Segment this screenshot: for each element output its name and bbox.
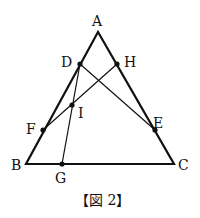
figure-caption: 【図 2】 <box>75 192 130 208</box>
label-d: D <box>61 54 72 70</box>
point-g <box>59 161 64 166</box>
segment-de <box>80 64 155 130</box>
point-f <box>40 127 45 132</box>
label-f: F <box>26 121 36 137</box>
triangle-abc <box>26 32 174 164</box>
point-i <box>69 102 74 107</box>
point-d <box>77 61 82 66</box>
label-i: I <box>78 105 84 121</box>
label-b: B <box>11 157 21 173</box>
label-h: H <box>124 54 136 70</box>
label-g: G <box>55 170 66 186</box>
label-e: E <box>153 115 163 131</box>
label-a: A <box>91 13 103 29</box>
triangle-diagram: A D H I F E B C G 【図 2】 <box>0 0 200 218</box>
label-c: C <box>178 157 189 173</box>
point-h <box>114 61 119 66</box>
